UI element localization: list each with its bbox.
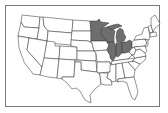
state-kansas [77,51,96,61]
state-maine [151,15,160,32]
state-north-dakota [72,20,91,31]
state-massachusetts-ct-ri [150,32,157,37]
state-florida [118,77,138,100]
state-iowa [91,41,109,51]
us-map [0,0,168,113]
state-colorado [59,46,77,60]
state-washington [21,15,40,28]
state-new-york [134,27,150,40]
state-montana [43,17,73,33]
state-new-mexico [57,59,75,79]
state-michigan-lower [116,28,126,42]
